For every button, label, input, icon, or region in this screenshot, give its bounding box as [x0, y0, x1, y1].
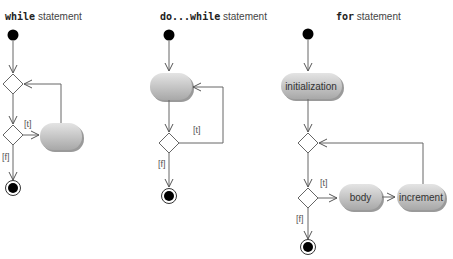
while-initial-node	[8, 30, 19, 41]
do-while-guard-true: [t]	[193, 125, 201, 135]
while-merge-diamond	[3, 74, 23, 94]
for-guard-true: [t]	[320, 178, 328, 188]
while-action	[40, 123, 82, 150]
for-increment-label: increment	[399, 192, 443, 203]
while-decision-diamond	[3, 125, 23, 145]
for-guard-false: [f]	[296, 214, 304, 224]
do-while-decision-diamond	[159, 133, 179, 153]
for-merge-diamond	[298, 133, 318, 153]
do-while-initial-node	[164, 30, 175, 41]
activity-diagrams: [t] [f] [t] [f] initialization [t]	[0, 0, 453, 259]
while-diagram: [t] [f]	[2, 30, 84, 196]
for-diagram: initialization [t] body increment [f]	[281, 29, 447, 255]
while-guard-true: [t]	[24, 119, 32, 129]
for-initial-node	[303, 29, 314, 40]
for-initialization-label: initialization	[285, 81, 337, 92]
do-while-action	[150, 73, 192, 100]
for-body-label: body	[350, 192, 372, 203]
for-decision-diamond	[298, 188, 318, 208]
while-guard-false: [f]	[2, 152, 10, 162]
do-while-guard-false: [f]	[158, 159, 166, 169]
do-while-diagram: [t] [f]	[150, 30, 223, 204]
